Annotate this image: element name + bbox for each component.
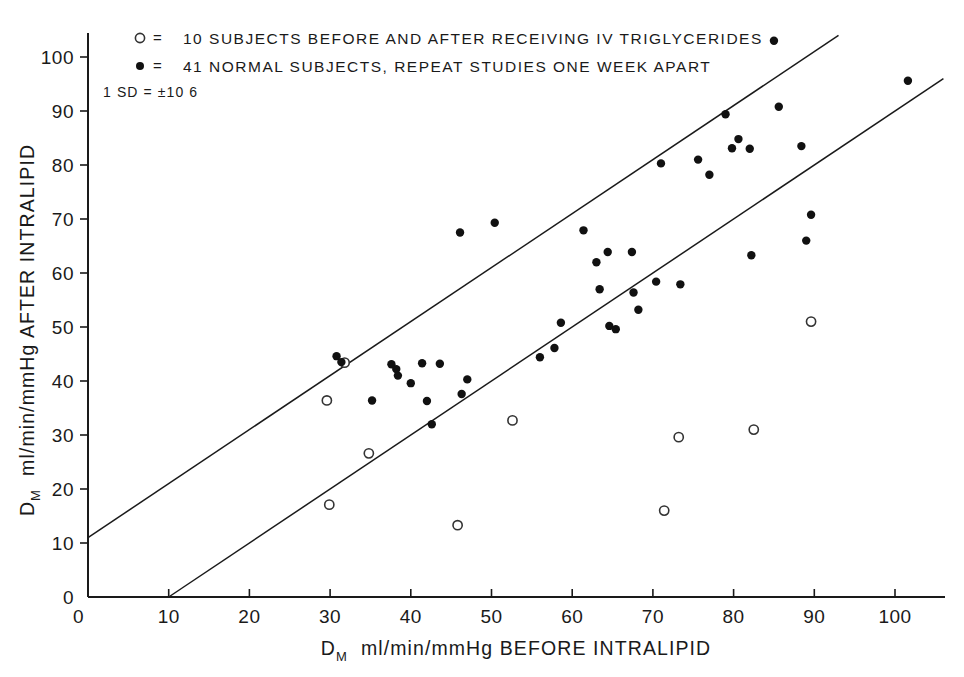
x-axis-title-rest: ml/min/mmHg BEFORE INTRALIPID [361,637,711,659]
y-tick-label-20: 20 [52,479,74,500]
data-point-filled-15 [536,353,544,361]
y-tick-label-10: 10 [52,533,74,554]
legend-equals-open: = [153,29,162,46]
data-point-filled-12 [457,390,465,398]
data-point-open-2 [325,500,334,509]
data-point-filled-35 [746,145,754,153]
data-point-filled-37 [770,37,778,45]
data-point-filled-14 [491,219,499,227]
y-axis-title-rest: ml/min/mmHg AFTER INTRALIPID [16,144,38,476]
x-tick-label-0: 0 [73,606,84,627]
y-axis-title-subscript: M [28,489,43,501]
x-axis-title: DM ml/min/mmHg BEFORE INTRALIPID [321,637,712,664]
data-point-filled-7 [418,359,426,367]
series-filled-circles [332,37,912,429]
data-point-filled-34 [734,135,742,143]
data-point-filled-13 [463,375,471,383]
data-point-filled-30 [694,155,702,163]
data-point-filled-6 [407,379,415,387]
y-tick-label-70: 70 [52,209,74,230]
data-point-filled-38 [775,102,783,110]
data-point-filled-5 [394,371,402,379]
data-point-open-0 [322,396,331,405]
legend-marker-filled-circle-icon [136,62,144,70]
y-axis-title: DM ml/min/mmHg AFTER INTRALIPID [16,144,43,516]
data-point-filled-9 [428,420,436,428]
x-tick-label-20: 20 [238,606,260,627]
data-point-filled-36 [747,251,755,259]
data-point-open-7 [674,433,683,442]
svg-text:DM ml/min/mmHg BEFORE INTRAL: DM ml/min/mmHg BEFORE INTRALIPID [321,637,712,664]
y-tick-label-100: 100 [41,47,74,68]
x-tick-label-90: 90 [803,606,825,627]
legend-label-open: 10 SUBJECTS BEFORE AND AFTER RECEIVING I… [183,30,763,47]
lower-identity-minus-sd [169,79,944,597]
data-point-filled-19 [592,258,600,266]
y-tick-label-50: 50 [52,317,74,338]
data-point-filled-10 [436,360,444,368]
y-tick-label-80: 80 [52,155,74,176]
axes-group [88,33,945,597]
y-tick-label-0: 0 [63,587,74,608]
figure-root: 0102030405060708090100 01020304050607080… [0,0,964,677]
x-axis-ticks: 0102030405060708090100 [73,589,912,627]
x-tick-label-100: 100 [878,606,911,627]
sd-annotation: 1 SD = ±10 6 [103,84,198,100]
legend-equals-filled: = [153,57,162,74]
legend: = 10 SUBJECTS BEFORE AND AFTER RECEIVING… [103,29,763,100]
data-point-filled-29 [676,280,684,288]
data-point-filled-39 [797,142,805,150]
data-point-filled-8 [423,397,431,405]
data-point-filled-24 [628,248,636,256]
series-open-circles [322,317,815,530]
x-tick-label-30: 30 [319,606,341,627]
data-point-filled-26 [634,306,642,314]
data-point-open-8 [749,425,758,434]
x-axis-title-prefix: D [321,637,336,659]
y-tick-label-60: 60 [52,263,74,284]
x-axis-title-subscript: M [336,649,348,664]
x-tick-label-80: 80 [723,606,745,627]
data-point-filled-25 [629,288,637,296]
data-point-open-5 [508,416,517,425]
y-axis-ticks: 0102030405060708090100 [41,47,88,608]
data-point-filled-31 [705,171,713,179]
data-point-open-9 [806,317,815,326]
data-point-filled-28 [657,159,665,167]
data-point-filled-1 [337,358,345,366]
data-point-filled-40 [802,236,810,244]
y-axis-title-prefix: D [16,501,38,516]
x-tick-label-70: 70 [642,606,664,627]
data-point-open-3 [364,449,373,458]
data-point-filled-20 [595,285,603,293]
x-tick-label-40: 40 [400,606,422,627]
x-tick-label-60: 60 [561,606,583,627]
data-point-filled-33 [728,144,736,152]
y-tick-label-90: 90 [52,101,74,122]
x-tick-label-50: 50 [480,606,502,627]
data-point-filled-11 [456,228,464,236]
data-point-filled-41 [807,210,815,218]
data-point-open-4 [453,521,462,530]
data-point-filled-42 [904,77,912,85]
reference-lines-group [88,35,943,597]
y-tick-label-40: 40 [52,371,74,392]
legend-label-filled: 41 NORMAL SUBJECTS, REPEAT STUDIES ONE W… [183,58,711,75]
scatter-plot-svg: 0102030405060708090100 01020304050607080… [0,0,964,677]
legend-marker-open-circle-icon [135,33,144,42]
x-tick-label-10: 10 [158,606,180,627]
data-point-filled-17 [557,318,565,326]
data-point-filled-27 [652,277,660,285]
y-tick-label-30: 30 [52,425,74,446]
svg-text:DM ml/min/mmHg AFTER INTRALIP: DM ml/min/mmHg AFTER INTRALIPID [16,144,43,516]
data-point-filled-23 [612,325,620,333]
data-point-filled-18 [579,226,587,234]
data-point-filled-16 [550,344,558,352]
data-point-filled-32 [721,110,729,118]
data-point-filled-21 [604,248,612,256]
data-point-filled-2 [368,396,376,404]
data-point-open-6 [660,506,669,515]
